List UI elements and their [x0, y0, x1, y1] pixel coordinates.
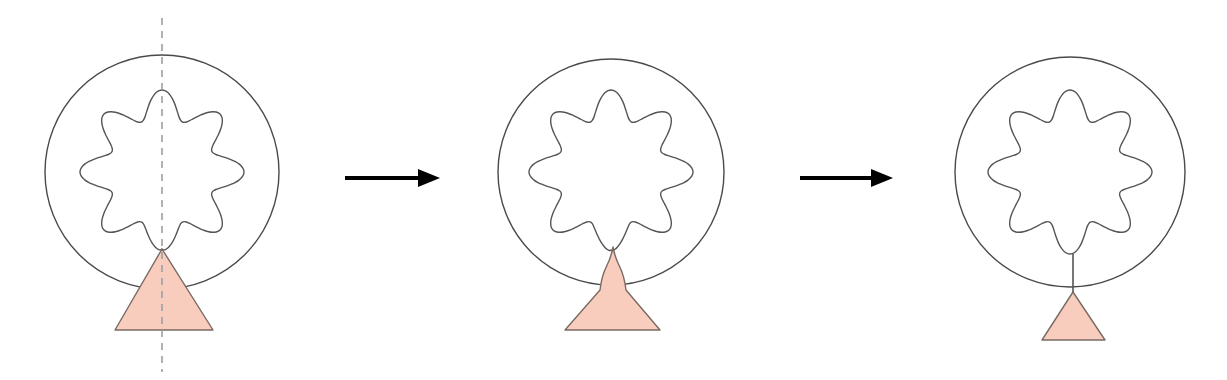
diagram-stage: [0, 0, 1227, 380]
diagram-canvas: [0, 0, 1227, 380]
